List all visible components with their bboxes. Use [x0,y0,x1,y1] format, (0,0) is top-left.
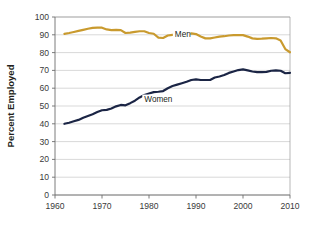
chart-container: 0102030405060708090100 19601970198019902… [0,0,320,228]
x-tick-label-1960: 1960 [45,201,64,211]
y-tick-label-40: 40 [39,119,49,129]
y-tick-label-10: 10 [39,172,49,182]
y-tick-label-30: 30 [39,137,49,147]
x-tick-label-1970: 1970 [92,201,111,211]
y-tick-label-100: 100 [35,12,50,22]
x-tick-label-2010: 2010 [280,201,299,211]
series-annotation-men: Men [175,30,191,39]
y-tick-label-80: 80 [39,48,49,58]
y-tick-label-60: 60 [39,83,49,93]
y-axis-title-label: Percent Employed [5,64,16,147]
y-tick-label-70: 70 [39,65,49,75]
y-tick-label-50: 50 [39,101,49,111]
y-axis-title: Percent Employed [5,64,16,147]
x-tick-label-1980: 1980 [139,201,158,211]
employment-rate-line-chart: 0102030405060708090100 19601970198019902… [0,0,320,228]
x-tick-label-2000: 2000 [233,201,252,211]
x-tick-label-1990: 1990 [186,201,205,211]
y-tick-label-0: 0 [44,190,49,200]
y-axis-ticks: 0102030405060708090100 [35,12,55,200]
x-axis-ticks: 196019701980199020002010 [45,195,299,211]
y-tick-label-20: 20 [39,154,49,164]
y-tick-label-90: 90 [39,30,49,40]
series-annotation-women: Women [144,95,173,104]
